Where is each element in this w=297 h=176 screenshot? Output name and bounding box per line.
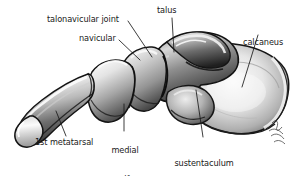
bone-sustentaculum-tali <box>166 86 214 125</box>
label-medial-cuneiform: medial cuneiform <box>99 127 151 176</box>
label-talus: talus <box>157 6 176 16</box>
figure-canvas: talonavicular joint navicular talus calc… <box>0 0 297 176</box>
label-medial-cuneiform-line2: cuneiform <box>99 175 151 176</box>
label-sustentaculum-tali-line1: sustentaculum <box>168 159 240 169</box>
label-medial-cuneiform-line1: medial <box>99 146 151 156</box>
label-sustentaculum-tali: sustentaculum tali <box>168 140 240 176</box>
label-navicular: navicular <box>79 34 116 44</box>
bone-first-metatarsal <box>15 73 94 147</box>
label-calcaneus: calcaneus <box>243 38 283 48</box>
bone-medial-cuneiform <box>88 60 135 122</box>
label-talonavicular-joint: talonavicular joint <box>47 15 119 25</box>
label-first-metatarsal: 1st metatarsal <box>35 138 93 148</box>
